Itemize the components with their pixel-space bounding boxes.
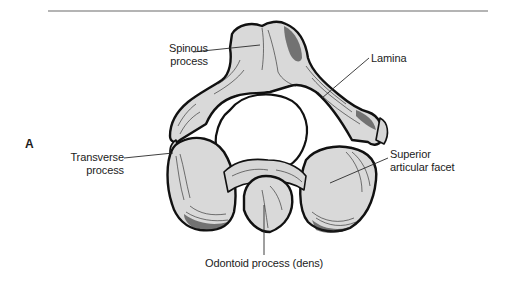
- leader-transverse: [124, 153, 173, 158]
- label-superior-articular-facet: Superior articular facet: [390, 148, 455, 174]
- label-superior-line1: Superior: [390, 148, 455, 161]
- label-superior-line2: articular facet: [390, 161, 455, 174]
- label-odontoid-process: Odontoid process (dens): [205, 257, 323, 270]
- label-spinous-line2: process: [152, 55, 208, 68]
- label-transverse-line2: process: [68, 164, 124, 177]
- vertebra-illustration: [0, 0, 507, 289]
- label-lamina: Lamina: [371, 52, 406, 65]
- leader-lamina: [322, 58, 369, 98]
- right-lateral-mass: [300, 147, 376, 233]
- panel-letter: A: [25, 137, 34, 151]
- label-transverse-line1: Transverse: [68, 151, 124, 164]
- label-spinous-line1: Spinous: [152, 42, 208, 55]
- label-transverse-process: Transverse process: [68, 151, 124, 177]
- odontoid-process: [244, 176, 292, 232]
- label-spinous-process: Spinous process: [152, 42, 208, 68]
